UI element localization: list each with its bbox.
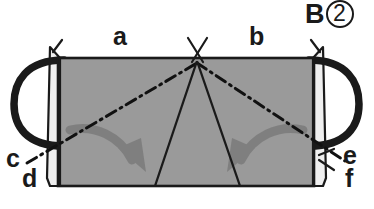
label-b: b — [249, 24, 264, 49]
label-f: f — [345, 166, 353, 191]
origami-step-diagram: a b c d e f B2 — [0, 0, 374, 209]
figure-title: B2 — [305, 0, 354, 28]
figure-title-letter: B — [305, 0, 325, 29]
label-d: d — [22, 166, 37, 191]
figure-step-badge: 2 — [326, 0, 354, 28]
label-c: c — [6, 146, 20, 171]
label-a: a — [113, 24, 127, 49]
diagram-canvas — [0, 0, 374, 209]
left-flap-tip-line — [53, 40, 62, 52]
right-flap-tip-line — [311, 40, 320, 52]
